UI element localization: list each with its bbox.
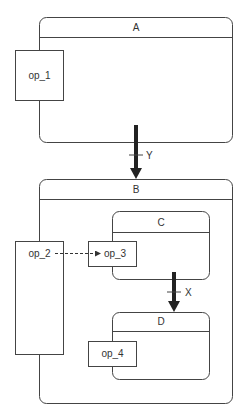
op-4-label: op_4	[101, 348, 124, 359]
transition-x-label: X	[185, 287, 192, 298]
state-c-label: C	[157, 217, 164, 228]
state-a-label: A	[133, 22, 140, 33]
op-1-box[interactable]: op_1	[16, 51, 64, 101]
op-2-box[interactable]: op_2	[16, 242, 64, 355]
op-2-label: op_2	[28, 248, 51, 259]
op-4-box[interactable]: op_4	[89, 342, 137, 367]
op-1-label: op_1	[28, 70, 51, 81]
op-3-label: op_3	[104, 248, 127, 259]
state-a[interactable]: A	[40, 18, 233, 143]
statechart-diagram: A op_1 Y B C D op_2 op_3	[0, 0, 248, 417]
transition-y-label: Y	[146, 150, 153, 161]
arrow-head-icon	[130, 168, 142, 179]
state-b-label: B	[133, 184, 140, 195]
state-d-label: D	[157, 316, 164, 327]
